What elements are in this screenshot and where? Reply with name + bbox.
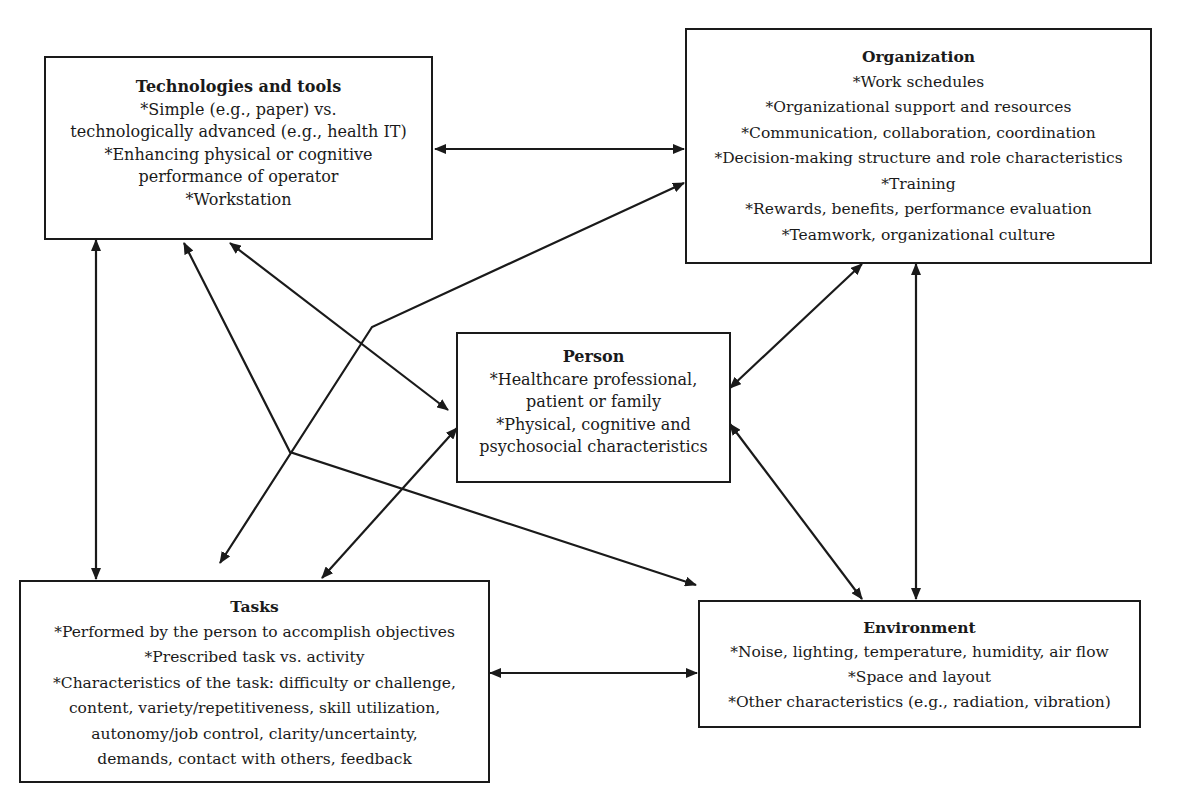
environment-box: Environment *Noise, lighting, temperatur… <box>698 600 1141 728</box>
organization-line: *Rewards, benefits, performance evaluati… <box>687 197 1150 223</box>
technologies-line: performance of operator <box>46 166 431 189</box>
tasks-line: autonomy/job control, clarity/uncertaint… <box>21 722 488 748</box>
technologies-line: *Workstation <box>46 189 431 212</box>
tasks-title: Tasks <box>21 594 488 620</box>
tasks-box: Tasks *Performed by the person to accomp… <box>19 580 490 783</box>
environment-line: *Noise, lighting, temperature, humidity,… <box>700 640 1139 665</box>
tasks-line: *Prescribed task vs. activity <box>21 645 488 671</box>
technologies-line: *Simple (e.g., paper) vs. <box>46 99 431 122</box>
tasks-line: content, variety/repetitiveness, skill u… <box>21 696 488 722</box>
person-line: psychosocial characteristics <box>458 436 729 459</box>
work-system-diagram: Technologies and tools *Simple (e.g., pa… <box>0 0 1177 811</box>
environment-line: *Space and layout <box>700 665 1139 690</box>
organization-line: *Work schedules <box>687 70 1150 96</box>
environment-line: *Other characteristics (e.g., radiation,… <box>700 690 1139 715</box>
organization-line: *Teamwork, organizational culture <box>687 223 1150 249</box>
organization-line: *Training <box>687 172 1150 198</box>
organization-line: *Decision-making structure and role char… <box>687 146 1150 172</box>
technologies-box: Technologies and tools *Simple (e.g., pa… <box>44 56 433 240</box>
person-title: Person <box>458 346 729 369</box>
arrow-person-environment <box>730 424 862 599</box>
tasks-line: *Characteristics of the task: difficulty… <box>21 671 488 697</box>
organization-line: *Communication, collaboration, coordinat… <box>687 121 1150 147</box>
organization-box: Organization *Work schedules *Organizati… <box>685 28 1152 264</box>
technologies-line: *Enhancing physical or cognitive <box>46 144 431 167</box>
arrow-technologies-person <box>230 243 448 410</box>
organization-title: Organization <box>687 44 1150 70</box>
person-line: patient or family <box>458 391 729 414</box>
person-line: *Physical, cognitive and <box>458 414 729 437</box>
technologies-title: Technologies and tools <box>46 76 431 99</box>
environment-title: Environment <box>700 615 1139 640</box>
technologies-line: technologically advanced (e.g., health I… <box>46 121 431 144</box>
tasks-line: demands, contact with others, feedback <box>21 747 488 773</box>
person-line: *Healthcare professional, <box>458 369 729 392</box>
tasks-line: *Performed by the person to accomplish o… <box>21 620 488 646</box>
organization-line: *Organizational support and resources <box>687 95 1150 121</box>
arrow-organization-person <box>730 264 862 388</box>
person-box: Person *Healthcare professional, patient… <box>456 332 731 483</box>
arrow-person-tasks <box>322 428 457 578</box>
